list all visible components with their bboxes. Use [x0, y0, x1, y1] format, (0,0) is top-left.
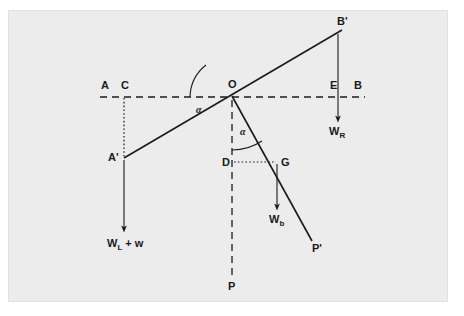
- force-label-WL-suffix: + w: [122, 237, 144, 249]
- force-label-WR-base: W: [329, 125, 340, 137]
- point-label-B-prime: B': [337, 15, 348, 27]
- figure-root: A C O E B B' A' D G P P' α α WR Wb WL + …: [0, 0, 464, 316]
- point-label-D: D: [222, 156, 230, 168]
- force-label-WL-plus-w: WL + w: [107, 237, 144, 252]
- force-diagram: A C O E B B' A' D G P P' α α WR Wb WL + …: [0, 0, 464, 316]
- angle-label-alpha-horizontal: α: [196, 104, 202, 115]
- force-label-Wb-base: W: [269, 213, 280, 225]
- force-label-WL-base: W: [107, 237, 118, 249]
- force-label-Wb-subscript: b: [279, 219, 284, 228]
- point-label-G: G: [281, 156, 290, 168]
- force-label-Wb: Wb: [269, 213, 284, 228]
- force-label-WR-subscript: R: [339, 131, 345, 140]
- point-label-A-prime: A': [108, 151, 119, 163]
- angle-label-alpha-vertical: α: [240, 126, 246, 137]
- force-label-WR: WR: [329, 125, 345, 140]
- point-label-C: C: [121, 79, 129, 91]
- lever-line-A-prime-B-prime: [124, 30, 342, 158]
- point-label-A: A: [101, 79, 109, 91]
- angle-arc-alpha-horizontal: [190, 65, 206, 97]
- point-label-B: B: [354, 79, 362, 91]
- point-label-O: O: [228, 78, 237, 90]
- point-label-P-prime: P': [312, 242, 322, 254]
- point-label-P: P: [228, 280, 235, 292]
- point-label-E: E: [330, 79, 337, 91]
